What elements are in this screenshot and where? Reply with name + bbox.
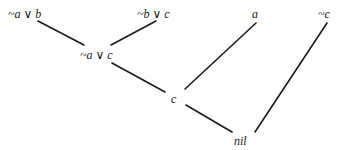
edge-n2-to-n3 xyxy=(111,21,156,45)
edge-n5-to-n7 xyxy=(186,105,232,132)
resolution-tree-diagram: ~a ∨ b ~b ∨ c ~a ∨ c a c ~c nil xyxy=(0,0,349,150)
edge-n1-to-n3 xyxy=(38,21,84,45)
node-not-a-or-c: ~a ∨ c xyxy=(80,48,113,62)
node-not-b-or-c: ~b ∨ c xyxy=(137,7,170,21)
labels-group: ~a ∨ b ~b ∨ c ~a ∨ c a c ~c nil xyxy=(8,7,330,148)
edge-n3-to-n5 xyxy=(112,63,165,92)
node-c: c xyxy=(171,92,177,106)
node-not-c: ~c xyxy=(318,7,330,21)
node-not-a-or-b: ~a ∨ b xyxy=(8,7,41,21)
node-nil: nil xyxy=(234,134,247,148)
node-a: a xyxy=(252,7,258,21)
edge-n6-to-n7 xyxy=(255,23,327,132)
edges-group xyxy=(38,21,327,132)
edge-n4-to-n5 xyxy=(185,23,256,89)
